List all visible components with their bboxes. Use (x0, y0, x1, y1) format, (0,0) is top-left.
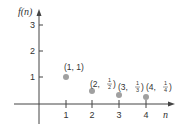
svg-text:(2,: (2, (90, 79, 100, 89)
x-tick-label: 4 (144, 110, 149, 120)
x-tick-label: 3 (117, 110, 122, 120)
svg-text:4: 4 (164, 87, 167, 93)
svg-text:(3,: (3, (118, 82, 128, 92)
svg-text:(4,: (4, (146, 82, 156, 92)
x-axis-label: n (163, 109, 168, 120)
svg-text:): ) (141, 82, 144, 92)
point-label: (3, 1 3 ) (118, 80, 144, 93)
svg-text:1: 1 (136, 80, 139, 86)
y-axis-label: f(n) (18, 6, 33, 18)
y-tick-label: 2 (30, 46, 35, 56)
svg-text:): ) (169, 82, 172, 92)
data-point (63, 74, 69, 80)
data-point (116, 92, 122, 98)
svg-text:3: 3 (136, 87, 139, 93)
svg-text:): ) (113, 79, 116, 89)
svg-text:1: 1 (164, 80, 167, 86)
x-tick-label: 1 (64, 110, 69, 120)
svg-text:1: 1 (108, 77, 111, 83)
x-tick-label: 2 (90, 110, 95, 120)
x-axis-arrow-icon (168, 102, 175, 107)
point-label: (1, 1) (64, 62, 84, 72)
data-point (143, 94, 149, 100)
y-tick-label: 3 (30, 20, 35, 30)
y-axis-arrow-icon (37, 9, 42, 16)
y-tick-label: 1 (30, 72, 35, 82)
chart: f(n) n 3 2 1 1 2 3 4 (1, 1) (2, 1 2 ) (3… (0, 0, 182, 130)
svg-text:2: 2 (108, 84, 111, 90)
point-label: (2, 1 2 ) (90, 77, 116, 90)
point-label: (4, 1 4 ) (146, 80, 172, 93)
